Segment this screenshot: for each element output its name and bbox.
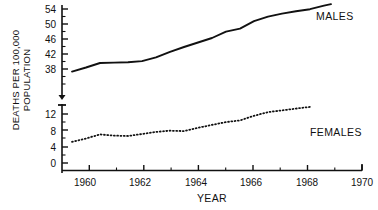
upper-y-axis	[59, 5, 69, 100]
lower-y-axis	[58, 104, 68, 173]
axis-break-marker	[59, 95, 66, 100]
x-axis	[62, 164, 362, 171]
chart-figure: DEATHS PER 100,000POPULATION 54 50 46 42…	[0, 0, 378, 210]
chart-plot-area	[0, 0, 378, 210]
series-line-males	[72, 4, 331, 72]
series-line-females	[72, 107, 310, 142]
